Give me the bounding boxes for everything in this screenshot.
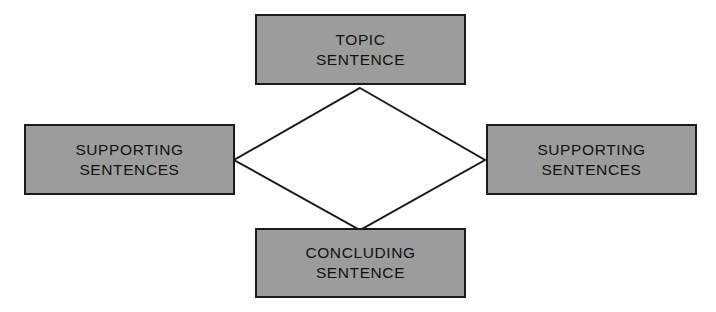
node-concluding-sentence: CONCLUDING SENTENCE bbox=[255, 228, 466, 298]
node-concluding-sentence-label-line1: CONCLUDING bbox=[305, 243, 415, 263]
node-supporting-left-label-line1: SUPPORTING bbox=[75, 140, 183, 160]
node-supporting-left-label-line2: SENTENCES bbox=[79, 160, 179, 180]
node-supporting-right-label-line2: SENTENCES bbox=[541, 160, 641, 180]
diamond-shape bbox=[234, 88, 485, 230]
node-supporting-right-label-line1: SUPPORTING bbox=[537, 140, 645, 160]
diagram-canvas: TOPIC SENTENCE SUPPORTING SENTENCES SUPP… bbox=[0, 0, 716, 312]
node-supporting-sentences-right: SUPPORTING SENTENCES bbox=[486, 124, 697, 195]
node-topic-sentence: TOPIC SENTENCE bbox=[255, 14, 466, 85]
node-concluding-sentence-label-line2: SENTENCE bbox=[316, 263, 405, 283]
node-topic-sentence-label-line2: SENTENCE bbox=[316, 50, 405, 70]
node-topic-sentence-label-line1: TOPIC bbox=[335, 30, 385, 50]
node-supporting-sentences-left: SUPPORTING SENTENCES bbox=[24, 124, 235, 195]
